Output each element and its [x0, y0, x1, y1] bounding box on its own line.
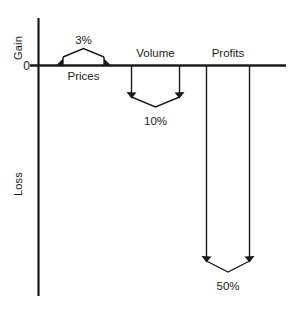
- gain-loss-chart: Gain Loss 0 3% Prices Volume 10% Profits…: [0, 0, 296, 310]
- profits-category-label: Profits: [212, 47, 245, 59]
- y-axis-zero-tick-label: 0: [23, 59, 30, 73]
- axes-group: [30, 18, 286, 296]
- prices-peak-top: [63, 49, 104, 58]
- y-axis-gain-label: Gain: [12, 36, 24, 60]
- volume-v-bottom: [132, 97, 180, 107]
- bracket-profits: [202, 66, 255, 272]
- profits-v-bottom: [207, 261, 250, 272]
- profits-value-label: 50%: [216, 280, 239, 292]
- bracket-prices: [57, 49, 111, 66]
- chart-canvas: Gain Loss 0 3% Prices Volume 10% Profits…: [0, 0, 296, 310]
- prices-right-arrowhead: [104, 59, 111, 66]
- profits-right-arrowhead: [245, 256, 255, 263]
- volume-right-arrowhead: [175, 92, 185, 99]
- volume-category-label: Volume: [136, 47, 174, 59]
- volume-value-label: 10%: [144, 115, 167, 127]
- prices-value-label: 3%: [75, 34, 92, 46]
- volume-left-arrowhead: [127, 92, 137, 99]
- bracket-volume: [127, 66, 185, 107]
- prices-left-arrowhead: [57, 59, 64, 66]
- prices-category-label: Prices: [68, 70, 100, 82]
- y-axis-loss-label: Loss: [12, 172, 24, 196]
- profits-left-arrowhead: [202, 256, 212, 263]
